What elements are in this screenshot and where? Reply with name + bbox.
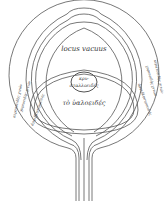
eye-diagram: locus vacuus κρυ- σταλλοειδές τὸ ὑαλοειδ… (0, 0, 168, 201)
label-vitreous: τὸ ὑαλοειδές (62, 99, 105, 107)
label-lens-2: σταλλοειδές (70, 83, 99, 88)
label-right-inner: ἀμφιβληστροειδής (137, 83, 153, 117)
label-lens-1: κρυ- (78, 76, 89, 81)
crystalline-lens (71, 72, 97, 92)
label-locus-vacuus: locus vacuus (61, 45, 107, 53)
